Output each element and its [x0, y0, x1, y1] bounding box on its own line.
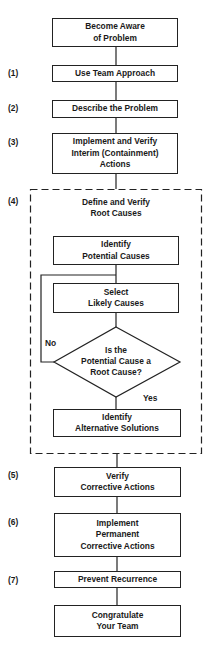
decision-diamond-root-cause: Is the Potential Cause a Root Cause? [66, 345, 166, 378]
step-number-3: (3) [8, 137, 18, 147]
step-box-describe-problem: Describe the Problem [52, 100, 178, 118]
substep-box-select-likely-causes: Select Likely Causes [53, 283, 179, 313]
end-box-congratulate-team: Congratulate Your Team [54, 605, 181, 637]
step-number-6: (6) [8, 517, 18, 527]
substep-box-identify-potential-causes: Identify Potential Causes [53, 236, 179, 265]
step-number-4: (4) [8, 196, 18, 206]
step-number-1: (1) [8, 68, 18, 78]
step-box-prevent-recurrence: Prevent Recurrence [54, 571, 181, 588]
step-box-verify-corrective: Verify Corrective Actions [54, 467, 181, 497]
group-title-root-causes: Define and Verify Root Causes [52, 197, 180, 219]
step-box-use-team-approach: Use Team Approach [52, 65, 178, 82]
step-number-5: (5) [8, 470, 18, 480]
step-box-interim-actions: Implement and Verify Interim (Containmen… [52, 133, 178, 174]
substep-box-identify-alternatives: Identify Alternative Solutions [53, 409, 181, 437]
decision-yes-label: Yes [143, 393, 157, 404]
step-number-7: (7) [8, 575, 18, 585]
step-box-implement-permanent: Implement Permanent Corrective Actions [54, 513, 181, 557]
start-box-become-aware: Become Aware of Problem [52, 18, 178, 47]
step-number-2: (2) [8, 103, 18, 113]
decision-no-label: No [45, 338, 56, 349]
